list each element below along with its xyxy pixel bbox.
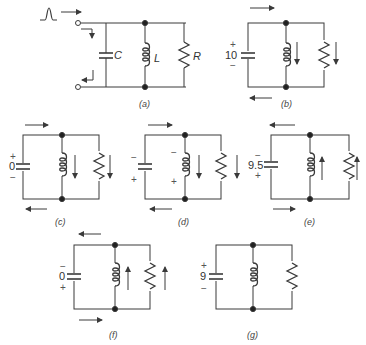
caption-b: (b) [281, 99, 292, 109]
terminal-top [76, 21, 81, 26]
caption-g: (g) [247, 330, 258, 340]
panel-g [209, 242, 298, 311]
cap-top-sign: − [131, 153, 137, 163]
cap-bottom-sign: + [255, 171, 261, 181]
inductor-top-sign: − [171, 148, 177, 158]
panel-d [138, 121, 237, 209]
arrow-left-icon [82, 70, 93, 80]
cap-bottom-sign: + [131, 175, 137, 185]
caption-e: (e) [304, 217, 315, 227]
cap-voltage: 9 [200, 271, 206, 282]
arrow-down-icon [81, 29, 92, 38]
panel-e [264, 132, 357, 209]
caption-d: (d) [178, 217, 189, 227]
input-pulse-icon [40, 8, 57, 20]
circuit-diagram [0, 0, 366, 345]
inductor-label: L [154, 53, 160, 64]
cap-bottom-sign: − [230, 61, 236, 71]
cap-voltage: 0 [9, 161, 15, 172]
cap-bottom-sign: − [201, 284, 207, 294]
cap-voltage: 0 [59, 271, 65, 282]
resistor-label: R [193, 51, 201, 62]
panel-c [16, 132, 110, 209]
caption-a: (a) [139, 99, 150, 109]
capacitor-label: C [114, 50, 122, 61]
caption-c: (c) [55, 217, 66, 227]
caption-f: (f) [109, 330, 118, 340]
panel-b [241, 8, 336, 98]
inductor-bottom-sign: + [171, 177, 177, 187]
panel-f [67, 234, 165, 320]
cap-bottom-sign: + [60, 283, 66, 293]
cap-bottom-sign: − [10, 173, 16, 183]
terminal-bottom [76, 85, 81, 90]
